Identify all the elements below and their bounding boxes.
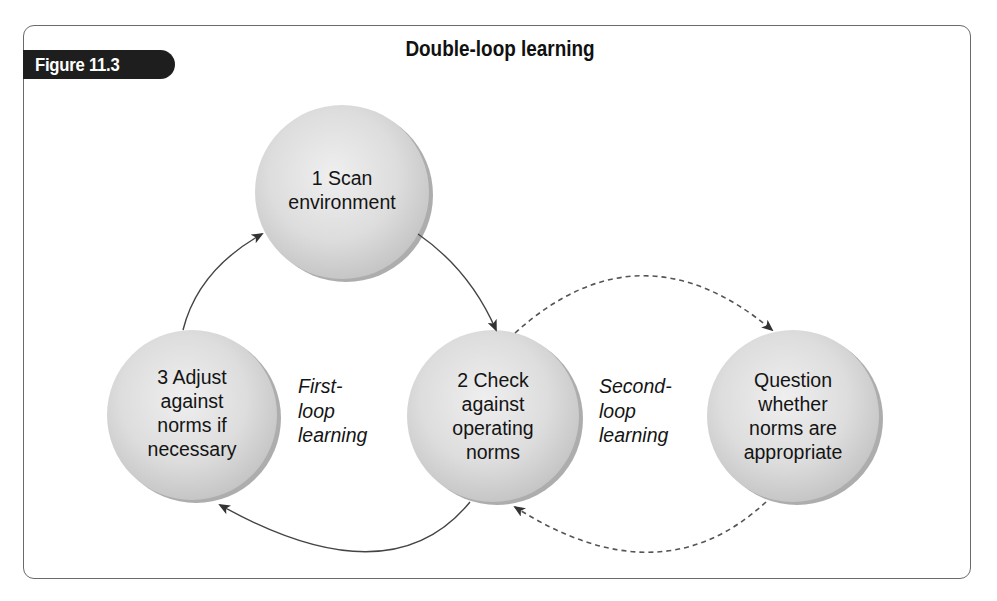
node-scan-label: 1 Scan environment	[262, 150, 422, 230]
node-adjust-label: 3 Adjust against norms if necessary	[112, 357, 272, 469]
arrow-adjust-to-scan	[183, 234, 262, 330]
first-loop-line: First-	[298, 374, 367, 399]
node-check-line: against	[452, 392, 533, 416]
node-question-line: norms are	[744, 416, 843, 440]
node-question-line: appropriate	[744, 440, 843, 464]
node-question-line: Question	[744, 368, 843, 392]
arrow-check-to-question	[515, 276, 772, 333]
diagram-canvas	[0, 0, 997, 601]
node-scan-line: 1 Scan	[288, 166, 395, 190]
node-check-line: 2 Check	[452, 368, 533, 392]
node-check-label: 2 Check against operating norms	[413, 360, 573, 472]
second-loop-line: loop	[599, 399, 672, 424]
arrow-question-to-check	[515, 502, 766, 552]
node-check-line: operating	[452, 416, 533, 440]
first-loop-line: loop	[298, 399, 367, 424]
second-loop-label: Second- loop learning	[599, 374, 672, 448]
node-adjust-line: necessary	[148, 437, 237, 461]
node-question-line: whether	[744, 392, 843, 416]
node-scan-line: environment	[288, 190, 395, 214]
arrow-scan-to-check	[418, 234, 496, 330]
node-adjust-line: norms if	[148, 413, 237, 437]
second-loop-line: learning	[599, 423, 672, 448]
node-question-label: Question whether norms are appropriate	[713, 360, 873, 472]
first-loop-line: learning	[298, 423, 367, 448]
node-check-line: norms	[452, 440, 533, 464]
node-adjust-line: 3 Adjust	[148, 365, 237, 389]
second-loop-line: Second-	[599, 374, 672, 399]
arrow-check-to-adjust	[220, 502, 470, 552]
first-loop-label: First- loop learning	[298, 374, 367, 448]
node-adjust-line: against	[148, 389, 237, 413]
